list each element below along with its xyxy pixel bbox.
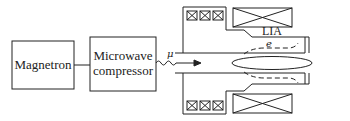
compressor-label-line2: compressor (93, 63, 154, 78)
focusing-coil-lower (233, 94, 292, 113)
microwave-wave-arrow (156, 60, 201, 66)
lia-housing-lower (183, 73, 309, 114)
solenoid-coils-upper (187, 11, 223, 20)
compressor-label-line1: Microwave (93, 48, 152, 63)
magnetron-label: Magnetron (14, 57, 72, 72)
electron-beam (232, 57, 312, 70)
solenoid-coils-lower (187, 101, 223, 110)
lia-label: LIA (262, 24, 282, 38)
microwave-mu-label: μ (167, 48, 174, 59)
lia-microwave-diagram: Magnetron Microwave compressor μ e LIA (0, 0, 350, 121)
electron-label: e (266, 38, 272, 49)
lia-housing-upper (183, 7, 309, 53)
